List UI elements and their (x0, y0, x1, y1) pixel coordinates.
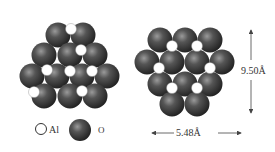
height-label: 9.50Å (241, 65, 267, 76)
oxygen-atom (185, 92, 210, 117)
aluminum-atom (167, 41, 178, 52)
right-cluster (135, 28, 235, 117)
left-cluster (20, 23, 120, 109)
aluminum-atom (77, 86, 88, 97)
aluminum-legend-icon (36, 124, 47, 135)
aluminum-atom (42, 65, 53, 76)
aluminum-atom (76, 45, 87, 56)
aluminum-atom (29, 87, 40, 98)
o-legend-label: O (98, 125, 105, 135)
height-dimension: 9.50Å (241, 30, 267, 113)
oxygen-legend-icon (69, 119, 91, 141)
aluminum-atom (65, 66, 76, 77)
width-label: 5.48Å (176, 127, 202, 138)
legend: Al O (36, 119, 106, 141)
al-legend-label: Al (49, 124, 59, 135)
aluminum-atom (205, 63, 216, 74)
aluminum-atom (192, 41, 203, 52)
aluminum-atom (167, 83, 178, 94)
width-dimension: 5.48Å (152, 127, 241, 138)
oxygen-atom (160, 92, 185, 117)
oxygen-atom (32, 43, 57, 68)
aluminum-atom (66, 24, 77, 35)
aluminum-atom (87, 66, 98, 77)
aluminum-atom (154, 63, 165, 74)
alumina-cluster-diagram: Al O 5.48Å 9.50Å (0, 0, 275, 152)
oxygen-atom (83, 43, 108, 68)
aluminum-atom (192, 83, 203, 94)
